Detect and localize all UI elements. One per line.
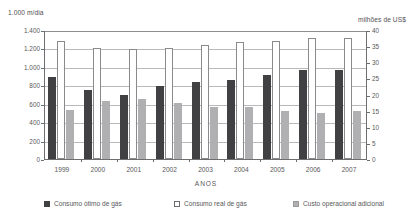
bar bbox=[93, 48, 101, 159]
legend-item: Consumo real de gás bbox=[174, 200, 293, 207]
bar-chart: 1.000 m/dia milhões de US$ 0200400600800… bbox=[0, 0, 412, 220]
y-axis-right-tick-mark bbox=[367, 79, 370, 80]
bar-group bbox=[153, 31, 189, 159]
y-axis-left-tick-label: 0 bbox=[36, 157, 40, 163]
category-separator-tick bbox=[332, 159, 333, 162]
x-axis-tick-label: 1999 bbox=[45, 166, 79, 173]
y-axis-right-tick-mark bbox=[367, 96, 370, 97]
y-axis-right-tick-mark bbox=[367, 144, 370, 145]
bar bbox=[120, 95, 128, 160]
x-axis-tick-label: 2001 bbox=[117, 166, 151, 173]
bar bbox=[272, 41, 280, 159]
y-axis-left-tick-label: 600 bbox=[29, 102, 40, 108]
y-axis-right-tick-label: 40 bbox=[372, 28, 379, 34]
x-axis-tick-label: 2002 bbox=[153, 166, 187, 173]
x-axis-tick-label: 2005 bbox=[260, 166, 294, 173]
x-axis-title: ANOS bbox=[0, 180, 412, 187]
bar-group bbox=[81, 31, 117, 159]
category-separator-tick bbox=[153, 159, 154, 162]
y-axis-left-tick-mark bbox=[41, 142, 44, 143]
x-axis-tick-label: 2000 bbox=[81, 166, 115, 173]
bar bbox=[335, 70, 343, 159]
y-axis-left-tick-label: 1.400 bbox=[24, 28, 40, 34]
y-axis-right-title: milhões de US$ bbox=[358, 16, 406, 23]
x-axis-tick-label: 2004 bbox=[224, 166, 258, 173]
bar bbox=[57, 41, 65, 159]
y-axis-right-tick-mark bbox=[367, 63, 370, 64]
legend-item: Custo operacional adicional bbox=[293, 200, 384, 207]
category-separator-tick bbox=[260, 159, 261, 162]
bar bbox=[192, 82, 200, 159]
bar-group bbox=[332, 31, 368, 159]
category-separator-tick bbox=[296, 159, 297, 162]
y-axis-right-tick-label: 35 bbox=[372, 44, 379, 50]
bar-group bbox=[45, 31, 81, 159]
y-axis-left-tick-mark bbox=[41, 68, 44, 69]
legend-item: Consumo ótimo de gás bbox=[44, 200, 174, 207]
bar bbox=[353, 111, 361, 159]
y-axis-right-tick-mark bbox=[367, 160, 370, 161]
chart-legend: Consumo ótimo de gásConsumo real de gásC… bbox=[44, 200, 384, 207]
legend-label: Consumo real de gás bbox=[184, 200, 247, 207]
y-axis-right-tick-label: 10 bbox=[372, 125, 379, 131]
bar bbox=[245, 107, 253, 159]
y-axis-right-tick-mark bbox=[367, 47, 370, 48]
y-axis-right-tick-mark bbox=[367, 31, 370, 32]
bar bbox=[299, 70, 307, 159]
bar bbox=[66, 110, 74, 159]
bar bbox=[236, 42, 244, 159]
bar bbox=[48, 77, 56, 159]
bar-group bbox=[260, 31, 296, 159]
y-axis-right-tick-label: 30 bbox=[372, 60, 379, 66]
y-axis-left-tick-mark bbox=[41, 49, 44, 50]
bar bbox=[129, 49, 137, 159]
y-axis-left-tick-mark bbox=[41, 123, 44, 124]
category-separator-tick bbox=[189, 159, 190, 162]
plot-area bbox=[44, 31, 367, 160]
y-axis-right-tick-label: 20 bbox=[372, 93, 379, 99]
x-axis-tick-label: 2006 bbox=[296, 166, 330, 173]
y-axis-right-tick-label: 25 bbox=[372, 76, 379, 82]
bar bbox=[102, 101, 110, 159]
y-axis-right-tick-mark bbox=[367, 112, 370, 113]
bar bbox=[138, 99, 146, 159]
y-axis-left-tick-mark bbox=[41, 86, 44, 87]
category-separator-tick bbox=[117, 159, 118, 162]
y-axis-left-tick-label: 800 bbox=[29, 83, 40, 89]
bar bbox=[263, 75, 271, 159]
bar bbox=[156, 86, 164, 159]
bar bbox=[84, 90, 92, 159]
y-axis-left-title: 1.000 m/dia bbox=[8, 9, 44, 16]
y-axis-right-tick-label: 5 bbox=[372, 141, 376, 147]
category-separator-tick bbox=[224, 159, 225, 162]
bar bbox=[210, 107, 218, 159]
bar bbox=[165, 48, 173, 159]
x-axis-tick-label: 2003 bbox=[189, 166, 223, 173]
legend-swatch-icon bbox=[44, 201, 50, 207]
bar bbox=[174, 103, 182, 159]
y-axis-left-tick-label: 1.000 bbox=[24, 65, 40, 71]
bar-group bbox=[296, 31, 332, 159]
y-axis-left-tick-mark bbox=[41, 160, 44, 161]
y-axis-right-tick-label: 0 bbox=[372, 157, 376, 163]
bar-group bbox=[189, 31, 225, 159]
bar bbox=[201, 45, 209, 159]
legend-swatch-icon bbox=[293, 201, 299, 207]
bar bbox=[317, 113, 325, 159]
bar bbox=[308, 38, 316, 159]
y-axis-right-tick-label: 15 bbox=[372, 109, 379, 115]
legend-label: Custo operacional adicional bbox=[303, 200, 384, 207]
y-axis-left-tick-label: 400 bbox=[29, 120, 40, 126]
legend-label: Consumo ótimo de gás bbox=[54, 200, 122, 207]
bar-group bbox=[224, 31, 260, 159]
y-axis-right-tick-mark bbox=[367, 128, 370, 129]
legend-swatch-icon bbox=[174, 201, 180, 207]
bar-group bbox=[117, 31, 153, 159]
y-axis-left-tick-mark bbox=[41, 105, 44, 106]
y-axis-left-tick-label: 200 bbox=[29, 139, 40, 145]
y-axis-left-tick-mark bbox=[41, 31, 44, 32]
x-axis-tick-label: 2007 bbox=[332, 166, 366, 173]
bar bbox=[281, 111, 289, 159]
y-axis-left-tick-label: 1.200 bbox=[24, 46, 40, 52]
bar bbox=[344, 38, 352, 159]
